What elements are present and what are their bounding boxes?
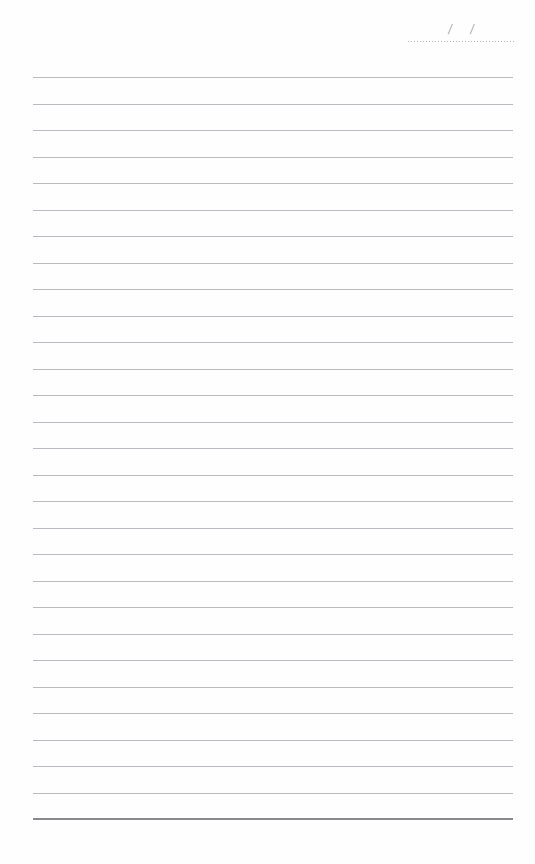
ruled-line[interactable]: [33, 554, 513, 555]
ruled-line[interactable]: [33, 660, 513, 661]
ruled-line[interactable]: [33, 766, 513, 767]
ruled-line[interactable]: [33, 342, 513, 343]
terminal-rule-line: [33, 818, 513, 820]
ruled-line[interactable]: [33, 210, 513, 211]
ruled-line[interactable]: [33, 77, 513, 78]
ruled-line[interactable]: [33, 289, 513, 290]
ruled-line[interactable]: [33, 157, 513, 158]
ruled-line[interactable]: [33, 740, 513, 741]
ruled-line[interactable]: [33, 236, 513, 237]
ruled-lines-area: [33, 0, 513, 864]
ruled-line[interactable]: [33, 528, 513, 529]
ruled-line[interactable]: [33, 581, 513, 582]
ruled-line[interactable]: [33, 501, 513, 502]
notepad-page: / /: [0, 0, 535, 864]
ruled-line[interactable]: [33, 369, 513, 370]
ruled-line[interactable]: [33, 263, 513, 264]
ruled-line[interactable]: [33, 475, 513, 476]
ruled-line[interactable]: [33, 687, 513, 688]
ruled-line[interactable]: [33, 793, 513, 794]
ruled-line[interactable]: [33, 634, 513, 635]
ruled-line[interactable]: [33, 607, 513, 608]
ruled-line[interactable]: [33, 713, 513, 714]
ruled-line[interactable]: [33, 395, 513, 396]
ruled-line[interactable]: [33, 316, 513, 317]
ruled-line[interactable]: [33, 183, 513, 184]
ruled-line[interactable]: [33, 104, 513, 105]
ruled-line[interactable]: [33, 448, 513, 449]
ruled-line[interactable]: [33, 130, 513, 131]
ruled-line[interactable]: [33, 422, 513, 423]
